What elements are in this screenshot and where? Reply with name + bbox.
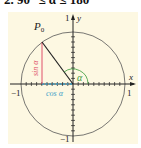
y-axis-arrow-icon xyxy=(71,14,75,20)
sin-label: sin α xyxy=(31,60,40,76)
tick-label-x-neg: −1 xyxy=(11,88,21,98)
tick-label-y-pos: 1 xyxy=(65,13,70,23)
cos-label: cos α xyxy=(46,89,64,98)
tick-label-y-neg: −1 xyxy=(60,134,70,144)
x-axis-label: x xyxy=(128,72,133,82)
y-axis-label: y xyxy=(76,13,81,23)
point-label: P0 xyxy=(33,20,45,34)
x-axis-arrow-icon xyxy=(130,82,136,86)
radius-line xyxy=(42,42,73,84)
angle-label: α xyxy=(77,72,83,83)
unit-circle-diagram: P0 α sin α cos α x y −1 1 1 −1 xyxy=(0,0,141,148)
tick-label-x-pos: 1 xyxy=(127,88,132,98)
